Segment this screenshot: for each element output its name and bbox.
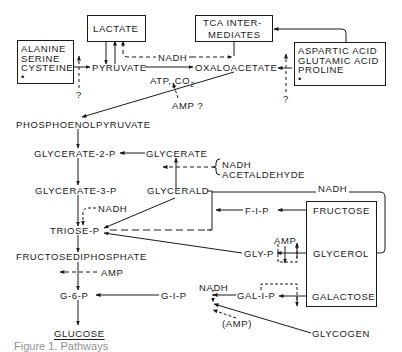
node-fructose-diphosphate: FRUCTOSEDIPHOSPHATE bbox=[16, 252, 147, 262]
node-pyruvate: PYRUVATE bbox=[92, 63, 147, 73]
figure-caption: Figure 1. Pathways bbox=[14, 341, 108, 352]
node-glyceraldehyde: GLYCERALD bbox=[147, 186, 209, 196]
node-glycerate-2-p: GLYCERATE-2-P bbox=[34, 149, 116, 159]
label-question-left: ? bbox=[76, 90, 82, 100]
node-g-6-p: G-6-P bbox=[60, 291, 88, 301]
label-amp-fdp: AMP bbox=[100, 268, 124, 278]
node-gal-1-p: GAL-I-P bbox=[237, 291, 276, 301]
node-pep: PHOSPHOENOLPYRUVATE bbox=[16, 120, 151, 130]
node-lactate: LACTATE bbox=[93, 24, 139, 34]
label-amp-question: AMP ? bbox=[172, 101, 203, 111]
node-f-1-p: F-I-P bbox=[245, 206, 269, 216]
label-nadh-top: NADH bbox=[156, 53, 189, 63]
node-tca-2: MEDIATES bbox=[208, 30, 261, 40]
node-triose-p: TRIOSE-P bbox=[50, 226, 100, 236]
label-atp-co2: ATP, CO2 bbox=[150, 76, 195, 88]
bullet-left: • bbox=[21, 72, 25, 82]
node-oxaloacetate: OXALOACETATE bbox=[195, 63, 277, 73]
node-glycerate: GLYCERATE bbox=[146, 149, 208, 159]
co2-subscript: 2 bbox=[190, 81, 195, 88]
label-nadh-acetaldehyde-2: ACETALDEHYDE bbox=[222, 170, 305, 180]
pathway-diagram: LACTATE TCA INTER- MEDIATES ALANINE SERI… bbox=[0, 0, 402, 352]
node-cysteine: CYSTEINE bbox=[21, 63, 73, 73]
node-g-1-p: G-I-P bbox=[161, 291, 187, 301]
node-proline: PROLINE bbox=[298, 65, 344, 75]
node-gly-p: GLY-P bbox=[244, 249, 274, 259]
label-amp-paren: (AMP) bbox=[222, 319, 252, 329]
label-nadh-right: NADH bbox=[316, 184, 349, 194]
label-nadh-triose: NADH bbox=[98, 204, 127, 214]
node-glucose: GLUCOSE bbox=[54, 329, 105, 339]
node-glycogen: GLYCOGEN bbox=[312, 329, 370, 339]
node-fructose: FRUCTOSE bbox=[313, 206, 370, 216]
atp-co2-text: ATP, CO bbox=[150, 75, 190, 86]
node-galactose: GALACTOSE bbox=[312, 292, 375, 302]
node-glycerol: GLYCEROL bbox=[313, 249, 369, 259]
node-tca-1: TCA INTER- bbox=[203, 18, 262, 28]
bullet-right: • bbox=[298, 74, 302, 84]
label-nadh-g1p: NADH bbox=[199, 283, 228, 293]
label-amp-gly: AMP bbox=[274, 236, 296, 246]
node-glycerate-3-p: GLYCERATE-3-P bbox=[35, 186, 117, 196]
label-question-right: ? bbox=[283, 94, 289, 104]
